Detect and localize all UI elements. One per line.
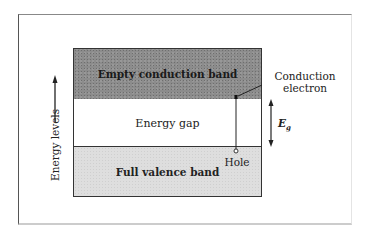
energy-levels-axis-label: Energy levels	[49, 111, 61, 181]
eg-subscript: g	[286, 123, 291, 132]
electron-dot	[235, 95, 238, 99]
energy-gap-arrow-icon	[269, 99, 274, 147]
electron-pointer	[238, 85, 262, 96]
conduction-electron-line2: electron	[265, 82, 345, 94]
hole-label: Hole	[222, 156, 252, 168]
conduction-electron-label: Conduction electron	[265, 70, 345, 94]
energy-gap-symbol: Eg	[278, 117, 291, 134]
eg-letter: E	[278, 117, 286, 129]
hole-circle	[234, 149, 238, 153]
conduction-electron-line1: Conduction	[265, 70, 345, 82]
